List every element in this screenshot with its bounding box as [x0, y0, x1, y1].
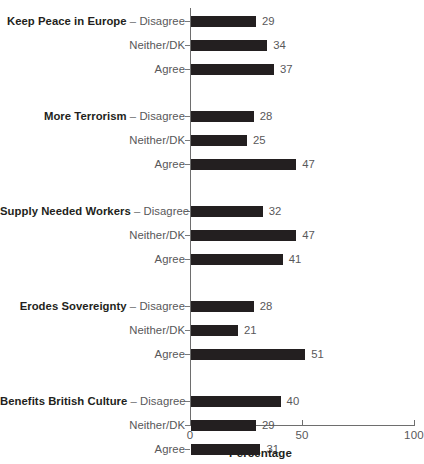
- label-dash: –: [127, 300, 140, 312]
- x-axis-title-text: Percentage: [229, 447, 292, 459]
- bar-row: Neither/DK34: [0, 40, 423, 51]
- bar-value-label: 29: [262, 14, 275, 29]
- bar: [191, 111, 254, 122]
- bar-row: Agree41: [0, 254, 423, 265]
- bar: [191, 325, 238, 336]
- bar-row: Agree51: [0, 349, 423, 360]
- bar: [191, 159, 296, 170]
- bar-row-label: Benefits British Culture – Disagree: [0, 394, 185, 409]
- bar-row: Benefits British Culture – Disagree40: [0, 396, 423, 407]
- category-name: Neither/DK: [129, 39, 185, 51]
- bar-value-label: 34: [273, 38, 286, 53]
- bar-value-label: 21: [244, 323, 257, 338]
- group-name: Erodes Sovereignty: [20, 300, 127, 312]
- bar-row-label: Supply Needed Workers – Disagree: [0, 204, 185, 219]
- bar-row-label: Agree: [0, 157, 185, 172]
- bar: [191, 64, 274, 75]
- bar-row-label: Neither/DK: [0, 133, 185, 148]
- bar-value-label: 28: [260, 109, 273, 124]
- bar-row-label: Neither/DK: [0, 38, 185, 53]
- x-axis-tick-label: 0: [187, 429, 194, 441]
- bar-row: Supply Needed Workers – Disagree32: [0, 206, 423, 217]
- bar: [191, 230, 296, 241]
- category-name: Agree: [155, 348, 185, 360]
- label-dash: –: [127, 15, 140, 27]
- bar-row: Erodes Sovereignty – Disagree28: [0, 301, 423, 312]
- bar: [191, 254, 283, 265]
- bar-row: Keep Peace in Europe – Disagree29: [0, 16, 423, 27]
- bar-value-label: 47: [302, 157, 315, 172]
- bar-value-label: 47: [302, 228, 315, 243]
- bar: [191, 396, 281, 407]
- category-name: Neither/DK: [129, 419, 185, 431]
- x-axis-title: Percentage: [0, 447, 423, 459]
- bar: [191, 16, 256, 27]
- bar-value-label: 29: [262, 418, 275, 433]
- bar-row: Neither/DK29: [0, 420, 423, 431]
- category-name: Disagree: [139, 300, 185, 312]
- bar: [191, 135, 247, 146]
- category-name: Neither/DK: [129, 134, 185, 146]
- bar-row-label: Keep Peace in Europe – Disagree: [0, 14, 185, 29]
- x-axis-tick: [190, 420, 191, 426]
- group-name: More Terrorism: [44, 110, 127, 122]
- bar-row-label: More Terrorism – Disagree: [0, 109, 185, 124]
- category-name: Neither/DK: [129, 324, 185, 336]
- bar-value-label: 37: [280, 62, 293, 77]
- group-name: Keep Peace in Europe: [7, 15, 127, 27]
- category-name: Disagree: [144, 205, 190, 217]
- bar-row-label: Neither/DK: [0, 228, 185, 243]
- label-dash: –: [131, 205, 144, 217]
- bar: [191, 420, 256, 431]
- bar: [191, 40, 267, 51]
- group-name: Supply Needed Workers: [0, 205, 131, 217]
- category-name: Agree: [155, 253, 185, 265]
- bar-row: Neither/DK21: [0, 325, 423, 336]
- category-name: Disagree: [140, 395, 186, 407]
- label-dash: –: [127, 110, 140, 122]
- bar-value-label: 40: [287, 394, 300, 409]
- bar-row-label: Agree: [0, 62, 185, 77]
- bar: [191, 301, 254, 312]
- category-name: Disagree: [139, 110, 185, 122]
- category-name: Agree: [155, 158, 185, 170]
- group-name: Benefits British Culture: [0, 395, 127, 407]
- bar-row: Agree47: [0, 159, 423, 170]
- bar-value-label: 28: [260, 299, 273, 314]
- bar-row-label: Agree: [0, 347, 185, 362]
- bar-row: More Terrorism – Disagree28: [0, 111, 423, 122]
- bar-value-label: 25: [253, 133, 266, 148]
- bar-row-label: Neither/DK: [0, 418, 185, 433]
- bar-row-label: Agree: [0, 252, 185, 267]
- bar-row-label: Neither/DK: [0, 323, 185, 338]
- category-name: Disagree: [139, 15, 185, 27]
- label-dash: –: [127, 395, 140, 407]
- x-axis-tick: [302, 420, 303, 426]
- bar-value-label: 41: [289, 252, 302, 267]
- x-axis-tick: [414, 420, 415, 426]
- bar-row: Neither/DK47: [0, 230, 423, 241]
- x-axis-tick-label: 50: [295, 429, 308, 441]
- category-name: Agree: [155, 63, 185, 75]
- bar-value-label: 32: [269, 204, 282, 219]
- bar-row: Agree37: [0, 64, 423, 75]
- bar-value-label: 51: [311, 347, 324, 362]
- bar: [191, 206, 263, 217]
- bar-row-label: Erodes Sovereignty – Disagree: [0, 299, 185, 314]
- bar-row: Neither/DK25: [0, 135, 423, 146]
- x-axis-tick-label: 100: [404, 429, 424, 441]
- category-name: Neither/DK: [129, 229, 185, 241]
- bar: [191, 349, 305, 360]
